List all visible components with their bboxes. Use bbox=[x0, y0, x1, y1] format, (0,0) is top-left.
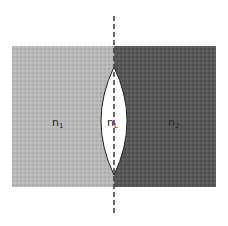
medium-2-region bbox=[114, 46, 216, 187]
medium-1-region bbox=[12, 46, 114, 187]
lens-diagram: n1 nL n2 bbox=[0, 0, 228, 226]
